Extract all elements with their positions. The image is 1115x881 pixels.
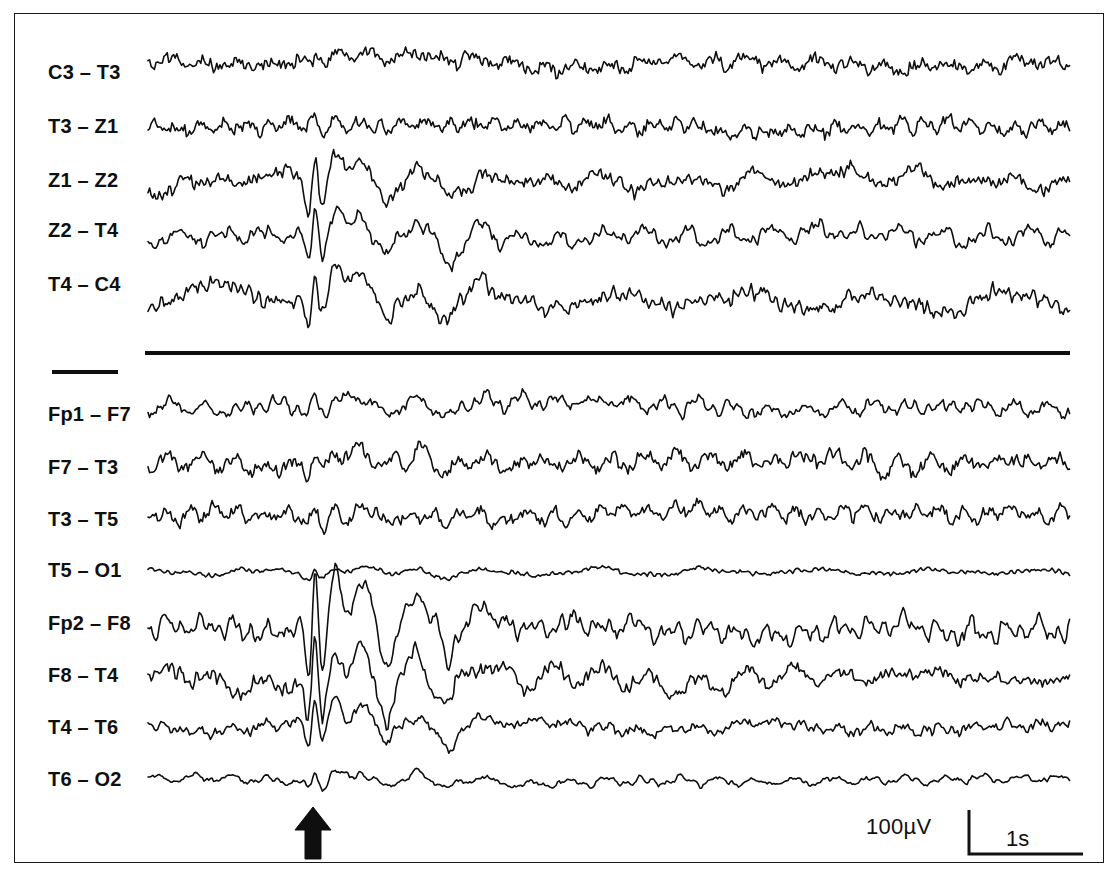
channel-label: T5 – O1 — [48, 560, 122, 580]
event-marker-arrow-icon — [294, 806, 332, 860]
amplitude-calibration-label: 100µV — [866, 814, 932, 840]
channel-label: Z2 – T4 — [48, 220, 118, 240]
eeg-figure: C3 – T3T3 – Z1Z1 – Z2Z2 – T4T4 – C4Fp1 –… — [0, 0, 1115, 881]
time-calibration-label: 1s — [1006, 826, 1029, 852]
channel-label: F7 – T3 — [48, 457, 118, 477]
channel-label: F8 – T4 — [48, 665, 118, 685]
channel-label: T4 – T6 — [48, 717, 118, 737]
channel-label: T4 – C4 — [48, 274, 121, 294]
montage-group-separator — [145, 351, 1070, 355]
gutter-rule — [52, 370, 118, 374]
channel-label: Fp2 – F8 — [48, 613, 131, 633]
channel-label: Fp1 – F7 — [48, 404, 131, 424]
figure-frame — [14, 13, 1104, 863]
channel-label: Z1 – Z2 — [48, 170, 118, 190]
channel-label: T6 – O2 — [48, 769, 122, 789]
channel-label: T3 – Z1 — [48, 116, 118, 136]
channel-label: T3 – T5 — [48, 509, 118, 529]
channel-label: C3 – T3 — [48, 62, 121, 82]
